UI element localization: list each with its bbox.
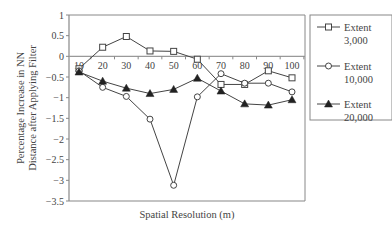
circle-marker-icon [147,116,153,122]
y-tick-label: −3 [53,175,64,186]
series-line [79,36,292,84]
series-1 [76,33,295,87]
circle-marker-icon [171,182,177,188]
legend: Extent3,000Extent10,000Extent20,000 [310,15,392,123]
legend-label-line-2: 10,000 [344,74,373,85]
triangle-marker-icon [99,77,107,84]
square-marker-icon [218,81,224,87]
circle-marker-icon [265,80,271,86]
series-line [79,72,292,105]
square-marker-icon [100,44,106,50]
y-axis: 10.50−0.5−1−1.5−2−2.5−3−3.5 [46,10,69,207]
square-marker-icon [326,24,332,30]
circle-marker-icon [100,84,106,90]
legend-label-line-1: Extent [344,99,371,110]
y-tick-label: 0 [59,51,64,62]
x-tick-label: 50 [169,60,179,71]
square-marker-icon [265,68,271,74]
y-tick-label: −3.5 [46,196,64,207]
square-marker-icon [123,33,129,39]
x-tick-label: 40 [145,60,155,71]
y-axis-title-line-1: Percentage Increase in NN [15,51,26,164]
triangle-marker-icon [170,85,178,92]
square-marker-icon [289,75,295,81]
y-tick-label: 0.5 [52,30,65,41]
x-tick-label: 70 [216,60,226,71]
x-tick-label: 100 [285,60,300,71]
x-axis-title: Spatial Resolution (m) [139,209,235,221]
legend-label-line-2: 3,000 [344,35,368,46]
triangle-marker-icon [241,100,249,107]
y-tick-label: −2 [53,134,64,145]
square-marker-icon [194,56,200,62]
x-tick-label: 80 [240,60,250,71]
triangle-marker-icon [193,74,201,81]
legend-label-line-1: Extent [344,61,371,72]
y-tick-label: −2.5 [46,154,64,165]
line-chart: 10.50−0.5−1−1.5−2−2.5−3−3.5 102030405060… [0,0,392,225]
circle-marker-icon [194,94,200,100]
triangle-marker-icon [288,96,296,103]
x-tick-label: 20 [98,60,108,71]
y-tick-label: 1 [59,10,64,21]
y-tick-label: −0.5 [46,72,64,83]
square-marker-icon [171,48,177,54]
legend-label-line-2: 20,000 [344,112,373,123]
square-marker-icon [147,48,153,54]
y-axis-title-line-2: Distance after Applying Filter [27,45,38,171]
x-tick-label: 30 [121,60,131,71]
circle-marker-icon [218,71,224,77]
series-line [79,71,292,185]
triangle-marker-icon [217,87,225,94]
circle-marker-icon [289,89,295,95]
y-axis-title: Percentage Increase in NN Distance after… [15,45,38,171]
y-tick-label: −1 [53,92,64,103]
circle-marker-icon [242,80,248,86]
circle-marker-icon [326,63,332,69]
y-tick-label: −1.5 [46,113,64,124]
circle-marker-icon [123,93,129,99]
series-2 [76,68,295,188]
legend-label-line-1: Extent [344,22,371,33]
